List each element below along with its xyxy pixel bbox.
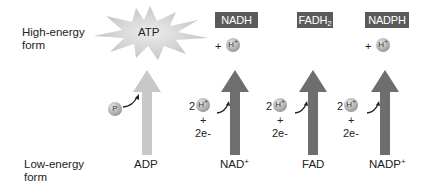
nadp-input-electrons: 2e- bbox=[343, 127, 359, 139]
proton-sup: + bbox=[352, 98, 356, 104]
proton-sup: + bbox=[384, 38, 388, 44]
nadp-curved-arrow-icon bbox=[366, 100, 382, 116]
fadh2-box: FADH2 bbox=[297, 12, 333, 28]
nadh-input-plus: + bbox=[200, 114, 206, 126]
nadh-curved-arrow-icon bbox=[216, 100, 232, 116]
proton-sup: + bbox=[234, 38, 238, 44]
nadp-label: NADP+ bbox=[369, 158, 406, 170]
phosphate-icon: P bbox=[108, 102, 122, 116]
nadp-input-proton-icon: H+ bbox=[344, 98, 358, 112]
high-energy-label-line2: form bbox=[22, 39, 85, 52]
proton-sup: + bbox=[281, 98, 285, 104]
fadh2-base: FADH bbox=[299, 14, 328, 26]
nadh-released-proton-icon: H+ bbox=[226, 38, 240, 52]
nadh-input-proton-icon: H+ bbox=[196, 98, 210, 112]
nadh-box: NADH bbox=[215, 12, 258, 28]
fad-label: FAD bbox=[302, 158, 324, 170]
phosphate-curved-arrow-icon bbox=[122, 94, 142, 110]
atp-label: ATP bbox=[138, 26, 160, 38]
fad-input-coef: 2 bbox=[266, 100, 272, 112]
nadh-input-electrons: 2e- bbox=[195, 127, 211, 139]
fad-input-proton-icon: H+ bbox=[273, 98, 287, 112]
low-energy-label-line1: Low-energy bbox=[24, 158, 84, 171]
high-energy-label-line1: High-energy bbox=[22, 26, 85, 39]
nad-label: NAD+ bbox=[220, 158, 249, 170]
nadph-box: NADPH bbox=[365, 12, 409, 28]
fad-input-plus: + bbox=[277, 114, 283, 126]
nadh-input-coef: 2 bbox=[189, 100, 195, 112]
fadh2-sub: 2 bbox=[327, 19, 331, 28]
low-energy-label: Low-energy form bbox=[24, 158, 84, 184]
nadp-input-coef: 2 bbox=[337, 100, 343, 112]
nadph-released-plus: + bbox=[365, 40, 371, 52]
nadp-input-plus: + bbox=[348, 114, 354, 126]
nadp-base: NADP bbox=[369, 158, 401, 170]
adp-label: ADP bbox=[134, 158, 158, 170]
low-energy-label-line2: form bbox=[24, 171, 84, 184]
nadph-released-proton-icon: H+ bbox=[376, 38, 390, 52]
proton-sup: + bbox=[204, 98, 208, 104]
nad-base: NAD bbox=[220, 158, 244, 170]
fad-curved-arrow-icon bbox=[294, 100, 310, 116]
nadp-sup: + bbox=[401, 157, 406, 166]
fad-input-electrons: 2e- bbox=[272, 127, 288, 139]
high-energy-label: High-energy form bbox=[22, 26, 85, 52]
nadh-released-plus: + bbox=[215, 40, 221, 52]
nad-sup: + bbox=[244, 157, 249, 166]
adp-to-atp-arrow bbox=[133, 70, 161, 155]
